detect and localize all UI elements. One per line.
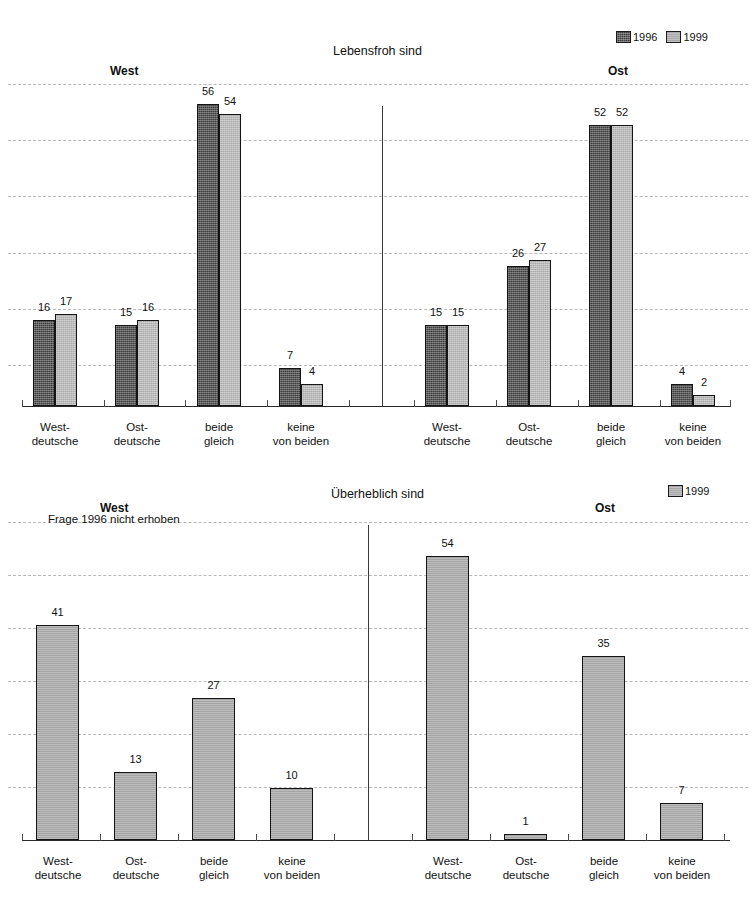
- bar-west-beidegleich-1999[interactable]: [192, 698, 235, 840]
- value-label: 27: [192, 680, 235, 691]
- bar-west-westdeutsche-1999[interactable]: [36, 625, 79, 840]
- xtick-line1: keine: [640, 854, 724, 868]
- bar-west-keinevonbeiden-1999[interactable]: [270, 788, 313, 840]
- xtick-line2: von beiden: [640, 868, 724, 882]
- axis-tick: [414, 400, 415, 407]
- xtick-label-west-ostdeutsche: Ost- deutsche: [94, 854, 178, 882]
- xtick-line1: West-: [16, 854, 100, 868]
- xtick-label-west-keinevonbeiden: keine von beiden: [259, 420, 343, 448]
- xtick-label-ost-ostdeutsche: Ost- deutsche: [487, 420, 571, 448]
- gridline: [8, 681, 748, 682]
- xtick-label-west-beidegleich: beide gleich: [172, 854, 256, 882]
- xtick-line1: West-: [405, 420, 489, 434]
- gridline: [8, 140, 748, 141]
- chart-lebensfroh: Lebensfroh sind West Ost 1996 1999: [0, 0, 755, 470]
- xtick-line2: deutsche: [406, 868, 490, 882]
- bar-ost-westdeutsche-1999[interactable]: [426, 556, 469, 840]
- bar-west-ostdeutsche-1996[interactable]: [115, 325, 137, 406]
- axis-tick: [349, 400, 350, 407]
- gridline: [8, 84, 748, 85]
- value-label: 13: [114, 754, 157, 765]
- xtick-line2: deutsche: [487, 434, 571, 448]
- bar-ost-beidegleich-1996[interactable]: [589, 125, 611, 406]
- xtick-label-ost-keinevonbeiden: keine von beiden: [640, 854, 724, 882]
- xtick-label-ost-westdeutsche: West- deutsche: [405, 420, 489, 448]
- bar-ost-westdeutsche-1996[interactable]: [425, 325, 447, 406]
- xtick-label-ost-keinevonbeiden: keine von beiden: [651, 420, 735, 448]
- chart1-panel-divider: [382, 106, 383, 406]
- value-label: 15: [442, 307, 474, 318]
- xtick-line2: deutsche: [13, 434, 97, 448]
- chart1-axis-line: [22, 406, 730, 407]
- xtick-line1: beide: [177, 420, 261, 434]
- chart2-annotation: Frage 1996 nicht erhoben: [48, 513, 180, 525]
- axis-tick: [22, 834, 23, 841]
- value-label: 7: [274, 350, 306, 361]
- bar-ost-ostdeutsche-1996[interactable]: [507, 266, 529, 406]
- bar-ost-westdeutsche-1999[interactable]: [447, 325, 469, 406]
- chart1-plot-area: 16 17 15 16 56 54 7 4 15 15 26 27 52 52 …: [0, 0, 755, 470]
- axis-tick: [730, 400, 731, 407]
- bar-west-ostdeutsche-1999[interactable]: [137, 320, 159, 406]
- xtick-label-ost-beidegleich: beide gleich: [562, 854, 646, 882]
- axis-tick: [22, 400, 23, 407]
- bar-west-ostdeutsche-1999[interactable]: [114, 772, 157, 840]
- gridline: [8, 253, 748, 254]
- xtick-line2: von beiden: [651, 434, 735, 448]
- value-label: 35: [582, 638, 625, 649]
- bar-west-beidegleich-1996[interactable]: [197, 104, 219, 406]
- axis-tick: [256, 834, 257, 841]
- bar-ost-keinevonbeiden-1999[interactable]: [693, 395, 715, 406]
- xtick-line2: deutsche: [405, 434, 489, 448]
- chart2-panel-divider: [368, 525, 369, 840]
- xtick-line1: Ost-: [94, 854, 178, 868]
- axis-tick: [334, 834, 335, 841]
- xtick-line1: keine: [250, 854, 334, 868]
- value-label: 1: [504, 816, 547, 827]
- axis-tick: [578, 400, 579, 407]
- xtick-line2: gleich: [172, 868, 256, 882]
- xtick-line1: keine: [651, 420, 735, 434]
- bar-west-keinevonbeiden-1999[interactable]: [301, 384, 323, 406]
- value-label: 4: [666, 366, 698, 377]
- axis-tick: [412, 834, 413, 841]
- bar-ost-ostdeutsche-1999[interactable]: [504, 834, 547, 840]
- gridline: [8, 575, 748, 576]
- value-label: 7: [660, 785, 703, 796]
- axis-tick: [490, 834, 491, 841]
- axis-tick: [568, 834, 569, 841]
- axis-tick: [104, 400, 105, 407]
- chart-ueberheblich: Überheblich sind West Ost 1999 Frage 199…: [0, 470, 755, 914]
- bar-ost-beidegleich-1999[interactable]: [611, 125, 633, 406]
- bar-ost-keinevonbeiden-1999[interactable]: [660, 803, 703, 840]
- xtick-line2: gleich: [562, 868, 646, 882]
- gridline: [8, 196, 748, 197]
- xtick-line1: West-: [13, 420, 97, 434]
- bar-ost-ostdeutsche-1999[interactable]: [529, 260, 551, 406]
- gridline: [8, 628, 748, 629]
- xtick-line2: von beiden: [250, 868, 334, 882]
- value-label: 16: [132, 302, 164, 313]
- xtick-line2: deutsche: [16, 868, 100, 882]
- chart2-axis-line: [22, 840, 730, 841]
- xtick-line2: deutsche: [484, 868, 568, 882]
- xtick-label-west-ostdeutsche: Ost- deutsche: [95, 420, 179, 448]
- xtick-line1: beide: [569, 420, 653, 434]
- xtick-line2: deutsche: [94, 868, 178, 882]
- value-label: 17: [50, 296, 82, 307]
- value-label: 54: [214, 96, 246, 107]
- axis-tick: [185, 400, 186, 407]
- xtick-line2: gleich: [569, 434, 653, 448]
- xtick-label-ost-ostdeutsche: Ost- deutsche: [484, 854, 568, 882]
- axis-tick: [496, 400, 497, 407]
- value-label: 4: [296, 366, 328, 377]
- xtick-line2: von beiden: [259, 434, 343, 448]
- xtick-line2: deutsche: [95, 434, 179, 448]
- bar-west-westdeutsche-1999[interactable]: [55, 314, 77, 406]
- xtick-line1: beide: [172, 854, 256, 868]
- xtick-line1: Ost-: [95, 420, 179, 434]
- axis-tick: [660, 400, 661, 407]
- bar-west-westdeutsche-1996[interactable]: [33, 320, 55, 406]
- bar-west-beidegleich-1999[interactable]: [219, 114, 241, 406]
- bar-ost-beidegleich-1999[interactable]: [582, 656, 625, 840]
